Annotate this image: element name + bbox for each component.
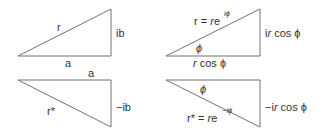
svg-text:r* = re: r* = re [187,112,217,124]
panel-z-conjugate-polar: ϕ r* = re −iϕ −ir cos ϕ [166,80,307,127]
panel-z-cartesian: r ib a [18,9,125,69]
vertical-label-minus-ib: −ib [116,101,131,113]
hypotenuse-label-polar: r = re iϕ [194,9,230,27]
vertical-label-ib: ib [116,27,125,39]
complex-triangles-diagram: r ib a r = re iϕ ϕ ir cos ϕ r cos ϕ a r*… [0,0,320,133]
vertical-prefix-minus-i: −i [265,101,274,113]
euler-e-conj: e [211,112,217,124]
horizontal-label-a: a [65,57,72,69]
horizontal-label-r-cos-phi: r cos ϕ [193,57,226,69]
panel-z-polar: r = re iϕ ϕ ir cos ϕ r cos ϕ [166,9,301,69]
vertical-label-ir-cos-phi: ir cos ϕ [265,27,301,39]
svg-text:r = re: r = re [194,15,220,27]
euler-e: e [214,15,220,27]
hypotenuse-label-r-star: r* [47,105,56,117]
angle-label-phi: ϕ [196,42,202,54]
vertical-label-minus-ir-cos-phi: −ir cos ϕ [265,101,307,113]
panel-z-conjugate-cartesian: a r* −ib [18,67,131,127]
hypotenuse-label-polar-conj: r* = re −iϕ [187,106,232,124]
exponent-minus-i-phi: −iϕ [222,106,232,115]
angle-label-phi-conj: ϕ [200,83,206,95]
hypotenuse-prefix: r = [194,15,210,27]
horizontal-cos-phi: cos ϕ [197,57,226,69]
hypotenuse-label-r: r [57,21,61,33]
hypotenuse-prefix-conj: r* = [187,112,207,124]
vertical-cos-phi: cos ϕ [271,27,300,39]
triangle-z [18,9,111,56]
horizontal-label-a-conj: a [88,67,95,79]
triangle-z-conjugate [18,80,111,127]
vertical-cos-phi-conj: cos ϕ [278,101,307,113]
exponent-i-phi: iϕ [224,9,230,18]
